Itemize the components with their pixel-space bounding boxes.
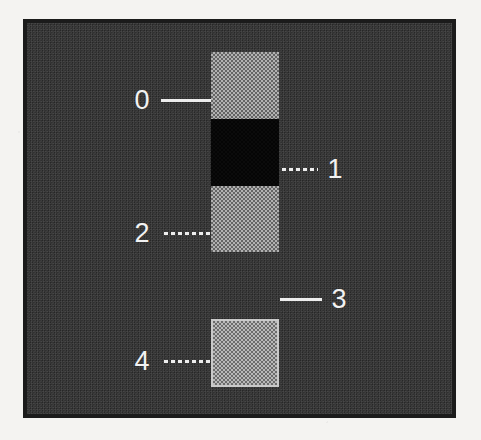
region-label-4: 4	[130, 348, 154, 375]
band-region-0	[211, 52, 279, 119]
region-label-0: 0	[130, 87, 154, 114]
band-region-2	[211, 186, 279, 252]
leader-line-3	[280, 298, 322, 301]
leader-line-2	[164, 232, 211, 235]
figure-panel-frame: 0 1 2 3 4	[23, 19, 456, 418]
band-region-3	[211, 252, 279, 319]
region-label-2: 2	[130, 220, 154, 247]
region-label-1: 1	[323, 156, 347, 183]
leader-line-1	[282, 168, 318, 171]
figure-page: 0 1 2 3 4	[0, 0, 481, 440]
band-region-1	[211, 119, 279, 186]
leader-line-4	[164, 360, 211, 363]
region-label-3: 3	[327, 286, 351, 313]
leader-line-0	[161, 99, 211, 102]
band-region-4	[211, 319, 279, 387]
